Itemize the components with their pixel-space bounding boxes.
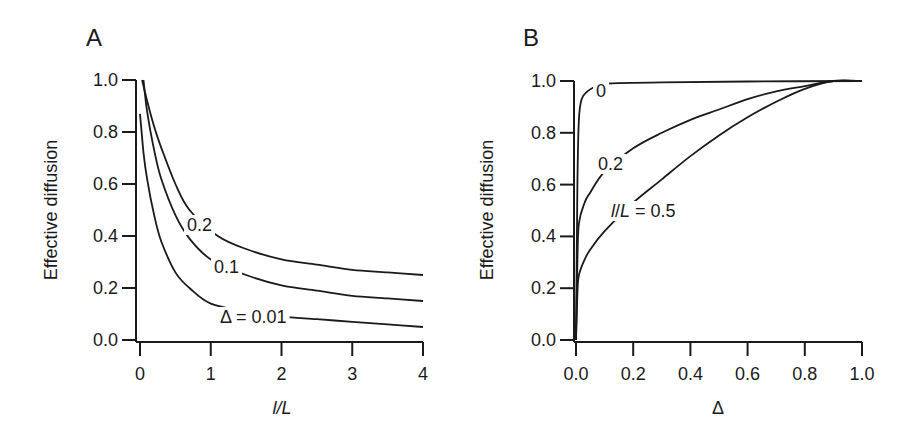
curve-a-1 <box>144 80 424 301</box>
y-tick-label: 0.2 <box>531 278 556 298</box>
y-tick-label: 0.0 <box>531 330 556 350</box>
panel-b-label: B <box>523 24 539 51</box>
panel-a: A Effective diffusion 0.00.20.40.60.81.0… <box>41 24 428 418</box>
x-tick-label: 0.6 <box>735 364 760 384</box>
x-tick-label: 2 <box>276 364 286 384</box>
x-tick-label: 4 <box>418 364 428 384</box>
figure: A Effective diffusion 0.00.20.40.60.81.0… <box>0 0 920 436</box>
panel-b-axes: 0.00.20.40.60.81.00.00.20.40.60.81.0 <box>531 71 875 384</box>
y-tick-label: 0.2 <box>93 278 118 298</box>
y-tick-label: 0.6 <box>531 175 556 195</box>
y-tick-label: 0.4 <box>93 226 118 246</box>
x-tick-label: 0.4 <box>678 364 703 384</box>
x-tick-label: 0.2 <box>621 364 646 384</box>
y-tick-label: 0.8 <box>531 123 556 143</box>
panel-a-label: A <box>86 24 102 51</box>
x-tick-label: 0.8 <box>792 364 817 384</box>
y-tick-label: 1.0 <box>531 71 556 91</box>
x-tick-label: 1.0 <box>849 364 874 384</box>
curve-a-2 <box>140 114 423 327</box>
panel-a-curve-label-0.1: 0.1 <box>214 257 239 277</box>
x-tick-label: 3 <box>347 364 357 384</box>
y-tick-label: 0.6 <box>93 174 118 194</box>
x-tick-label: 0 <box>135 364 145 384</box>
panel-a-curve-label-delta-0.01: Δ = 0.01 <box>220 307 287 327</box>
panel-a-curve-label-0.2: 0.2 <box>187 215 212 235</box>
panel-b-y-axis-title: Effective diffusion <box>477 140 497 280</box>
x-tick-label: 1 <box>206 364 216 384</box>
panel-b-curve-label-0.2: 0.2 <box>598 154 623 174</box>
panel-a-curves <box>140 80 423 327</box>
curve-a-0 <box>142 80 423 275</box>
y-tick-label: 1.0 <box>93 70 118 90</box>
panel-a-axes: 0.00.20.40.60.81.001234 <box>93 70 428 384</box>
panel-a-x-axis-title: l/L <box>272 398 291 418</box>
panel-b-x-axis-title: Δ <box>712 398 724 418</box>
y-tick-label: 0.4 <box>531 226 556 246</box>
panel-b-curve-label-0: 0 <box>596 81 606 101</box>
panel-b: B Effective diffusion 0.00.20.40.60.81.0… <box>477 24 875 418</box>
y-tick-label: 0.8 <box>93 122 118 142</box>
x-tick-label: 0.0 <box>563 364 588 384</box>
panel-b-curve-label-l-over-L-0.5: l/L = 0.5 <box>611 201 676 221</box>
panel-a-y-axis-title: Effective diffusion <box>41 140 61 280</box>
y-tick-label: 0.0 <box>93 330 118 350</box>
